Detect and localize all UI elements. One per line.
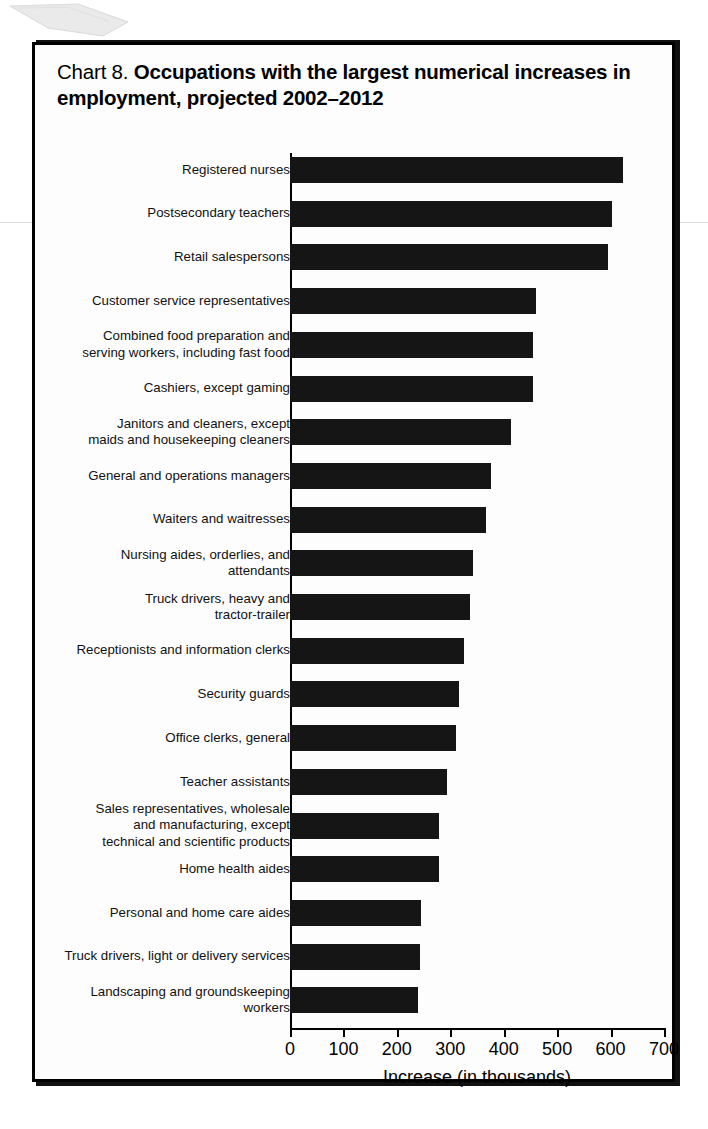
bar-category-label-line: Retail salespersons	[50, 249, 290, 266]
bar-category-label: Personal and home care aides	[50, 905, 290, 922]
bar	[290, 288, 536, 314]
bar-category-label-line: Janitors and cleaners, except	[50, 416, 290, 433]
bar	[290, 638, 464, 664]
bar-row: Retail salespersons	[35, 244, 678, 288]
bar-category-label-line: Home health aides	[50, 861, 290, 878]
bar	[290, 725, 456, 751]
bar-category-label-line: Teacher assistants	[50, 774, 290, 791]
bar-category-label: Postsecondary teachers	[50, 205, 290, 222]
bar-category-label: Janitors and cleaners, exceptmaids and h…	[50, 416, 290, 449]
bar	[290, 507, 486, 533]
x-axis-tick-label: 700	[634, 1039, 694, 1060]
bar	[290, 856, 439, 882]
bar-row: Home health aides	[35, 856, 678, 900]
scan-artifact-icon	[8, 2, 173, 42]
bar-category-label: Customer service representatives	[50, 293, 290, 310]
bar-category-label-line: Postsecondary teachers	[50, 205, 290, 222]
bar	[290, 463, 491, 489]
bar-category-label-line: Registered nurses	[50, 162, 290, 179]
x-axis-tick	[343, 1028, 345, 1037]
bar	[290, 900, 421, 926]
x-axis-tick-label: 200	[367, 1039, 427, 1060]
x-axis-tick-label: 300	[420, 1039, 480, 1060]
bar-category-label-line: Receptionists and information clerks	[50, 642, 290, 659]
chart-frame: Chart 8. Occupations with the largest nu…	[32, 42, 675, 1082]
bar	[290, 594, 470, 620]
bar	[290, 376, 533, 402]
bar	[290, 550, 473, 576]
bar-row: Security guards	[35, 681, 678, 725]
bar	[290, 987, 418, 1013]
bar	[290, 332, 533, 358]
x-axis-tick	[290, 1028, 292, 1037]
bar-row: Nursing aides, orderlies, andattendants	[35, 550, 678, 594]
bar-category-label-line: Customer service representatives	[50, 293, 290, 310]
bar-category-label: Teacher assistants	[50, 774, 290, 791]
bar-category-label-line: Security guards	[50, 686, 290, 703]
bar-row: Customer service representatives	[35, 288, 678, 332]
bar-category-label: Home health aides	[50, 861, 290, 878]
x-axis-title: Increase (in thousands)	[290, 1067, 664, 1088]
bar-row: Combined food preparation andserving wor…	[35, 332, 678, 376]
bar	[290, 244, 608, 270]
bar-row: Registered nurses	[35, 157, 678, 201]
bar-row: Truck drivers, light or delivery service…	[35, 944, 678, 988]
x-axis-tick	[611, 1028, 613, 1037]
bar-category-label: Combined food preparation andserving wor…	[50, 328, 290, 361]
bar-category-label-line: Sales representatives, wholesale	[50, 801, 290, 818]
x-axis-tick-label: 500	[527, 1039, 587, 1060]
bar-category-label-line: Waiters and waitresses	[50, 511, 290, 528]
bar-row: Janitors and cleaners, exceptmaids and h…	[35, 419, 678, 463]
bar-series: Registered nursesPostsecondary teachersR…	[35, 45, 678, 1085]
bar	[290, 769, 447, 795]
bar-row: Personal and home care aides	[35, 900, 678, 944]
bar-row: Truck drivers, heavy andtractor-trailer	[35, 594, 678, 638]
x-axis-tick-label: 600	[581, 1039, 641, 1060]
bar-category-label-line: Office clerks, general	[50, 730, 290, 747]
plot-area: Registered nursesPostsecondary teachersR…	[35, 45, 678, 1085]
x-axis-line	[290, 1028, 664, 1030]
bar-category-label: Cashiers, except gaming	[50, 380, 290, 397]
bar-row: Cashiers, except gaming	[35, 376, 678, 420]
bar-category-label: Truck drivers, light or delivery service…	[50, 948, 290, 965]
bar-category-label-line: General and operations managers	[50, 468, 290, 485]
bar-category-label-line: workers	[50, 1000, 290, 1017]
bar-category-label: General and operations managers	[50, 468, 290, 485]
bar-category-label: Receptionists and information clerks	[50, 642, 290, 659]
bar	[290, 201, 612, 227]
x-axis-tick-label: 0	[260, 1039, 320, 1060]
bar-row: Sales representatives, wholesaleand manu…	[35, 813, 678, 857]
bar-category-label-line: maids and housekeeping cleaners	[50, 432, 290, 449]
bar-row: Postsecondary teachers	[35, 201, 678, 245]
x-axis-tick	[504, 1028, 506, 1037]
bar-row: Waiters and waitresses	[35, 507, 678, 551]
bar-category-label: Landscaping and groundskeepingworkers	[50, 984, 290, 1017]
bar-category-label: Nursing aides, orderlies, andattendants	[50, 547, 290, 580]
bar-category-label: Truck drivers, heavy andtractor-trailer	[50, 591, 290, 624]
bar-category-label-line: serving workers, including fast food	[50, 345, 290, 362]
bar-category-label-line: tractor-trailer	[50, 607, 290, 624]
bar-category-label-line: Nursing aides, orderlies, and	[50, 547, 290, 564]
bar-row: Receptionists and information clerks	[35, 638, 678, 682]
bar-category-label-line: Truck drivers, light or delivery service…	[50, 948, 290, 965]
bar-category-label: Office clerks, general	[50, 730, 290, 747]
bar-category-label: Security guards	[50, 686, 290, 703]
bar	[290, 813, 439, 839]
bar	[290, 681, 459, 707]
bar-row: Landscaping and groundskeepingworkers	[35, 987, 678, 1031]
bar-category-label: Sales representatives, wholesaleand manu…	[50, 801, 290, 851]
bar-category-label-line: Truck drivers, heavy and	[50, 591, 290, 608]
x-axis-tick	[450, 1028, 452, 1037]
bar-category-label-line: attendants	[50, 563, 290, 580]
bar-row: Office clerks, general	[35, 725, 678, 769]
bar	[290, 157, 623, 183]
bar	[290, 419, 511, 445]
bar-category-label-line: Personal and home care aides	[50, 905, 290, 922]
bar	[290, 944, 420, 970]
bar-row: General and operations managers	[35, 463, 678, 507]
x-axis-tick	[664, 1028, 666, 1037]
bar-category-label: Waiters and waitresses	[50, 511, 290, 528]
x-axis-tick	[397, 1028, 399, 1037]
bar-category-label: Registered nurses	[50, 162, 290, 179]
bar-category-label-line: technical and scientific products	[50, 834, 290, 851]
